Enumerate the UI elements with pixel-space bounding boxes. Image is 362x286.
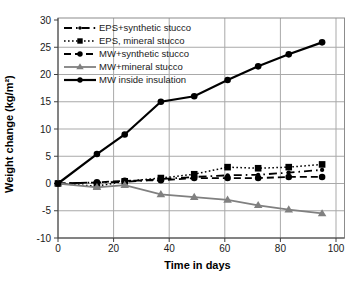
legend-item-3: MW+synthetic stucco [64, 48, 189, 59]
legend-label: MW+mineral stucco [99, 61, 183, 72]
y-axis-title: Weight change (kg/m²) [3, 75, 15, 193]
x-tick-label: 60 [219, 243, 231, 254]
chart-figure: 302520151050-5-10020406080100EPS+synthet… [0, 0, 362, 286]
legend-item-5: MW inside insulation [64, 74, 186, 85]
x-tick-label: 20 [108, 243, 120, 254]
line-chart-canvas: 302520151050-5-10020406080100EPS+synthet… [0, 0, 362, 286]
axes [54, 18, 345, 242]
legend: EPS+synthetic stuccoEPS, mineral stuccoM… [64, 22, 191, 85]
legend-label: EPS, mineral stucco [99, 35, 185, 46]
x-tick-label: 0 [55, 243, 61, 254]
legend-label: MW+synthetic stucco [99, 48, 189, 59]
legend-label: MW inside insulation [99, 74, 186, 85]
x-axis-title: Time in days [58, 259, 337, 271]
legend-item-1: EPS+synthetic stucco [64, 22, 191, 33]
y-tick-label: -5 [42, 205, 51, 216]
x-tick-label: 80 [275, 243, 287, 254]
y-tick-label: 0 [45, 178, 51, 189]
y-tick-label: 5 [45, 151, 51, 162]
y-tick-label: 25 [40, 42, 52, 53]
y-tick-label: 15 [40, 96, 52, 107]
y-tick-label: 30 [40, 15, 52, 26]
y-tick-label: 20 [40, 69, 52, 80]
legend-item-4: MW+mineral stucco [64, 61, 183, 72]
y-tick-label: -10 [37, 233, 52, 244]
legend-label: EPS+synthetic stucco [99, 22, 191, 33]
y-tick-label: 10 [40, 124, 52, 135]
series-3 [55, 174, 326, 187]
series-5 [55, 39, 326, 187]
legend-item-2: EPS, mineral stucco [64, 35, 185, 46]
x-tick-label: 100 [328, 243, 345, 254]
x-tick-label: 40 [164, 243, 176, 254]
